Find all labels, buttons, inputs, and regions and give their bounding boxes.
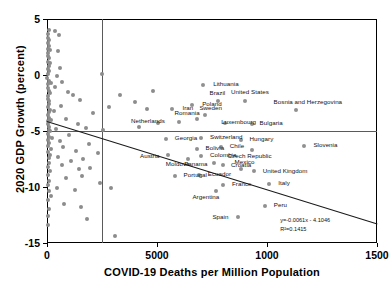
regression-annotation: y=-0.0061x - 4.1046 R²=0.1415 <box>280 216 330 233</box>
data-point <box>221 183 225 187</box>
point-label: Spain <box>212 214 228 220</box>
y-tick-label: -10 <box>10 181 40 193</box>
data-point <box>61 145 65 149</box>
data-point <box>46 183 50 187</box>
x-tick-mark <box>377 243 378 247</box>
point-label: Brazil <box>210 90 226 96</box>
data-point <box>199 136 203 140</box>
data-point <box>263 204 267 208</box>
data-point <box>195 147 199 151</box>
data-point <box>294 108 298 112</box>
point-label: Ecuador <box>208 171 231 177</box>
data-point <box>100 72 104 76</box>
point-label: Bosnia and Herzegovina <box>274 99 343 105</box>
r-squared-value: R²=0.1415 <box>280 225 330 234</box>
point-label: Chile <box>230 143 244 149</box>
data-point <box>64 117 68 121</box>
data-point <box>164 137 168 141</box>
data-point <box>73 188 77 192</box>
point-label: United Kingdom <box>263 168 308 174</box>
point-label: Austria <box>140 153 160 159</box>
point-label: Romania <box>175 110 200 116</box>
scatter-chart: 2020 GDP Growth (percent) COVID-19 Death… <box>0 0 391 285</box>
x-tick-label: 1500 <box>347 249 391 261</box>
data-point <box>84 126 88 130</box>
point-label: Portugal <box>184 172 207 178</box>
data-point <box>62 202 66 206</box>
point-label: Slovenia <box>313 142 337 148</box>
point-label: Panama <box>184 161 207 167</box>
data-point <box>78 98 82 102</box>
data-point <box>46 214 50 218</box>
x-tick-label: 0 <box>17 249 77 261</box>
data-point <box>55 74 59 78</box>
data-point <box>52 109 56 113</box>
point-label: Peru <box>274 202 287 208</box>
point-label: Switzerland <box>210 134 243 140</box>
y-tick-mark <box>43 187 47 188</box>
data-point <box>137 125 141 129</box>
data-point <box>77 167 81 171</box>
data-point <box>199 154 203 158</box>
horizontal-reference-line <box>47 131 377 132</box>
data-point <box>166 153 170 157</box>
data-point <box>145 107 149 111</box>
x-tick-mark <box>267 243 268 247</box>
x-tick-mark <box>47 243 48 247</box>
data-point <box>57 33 61 37</box>
y-tick-label: 0 <box>10 69 40 81</box>
point-label: Mexico <box>235 159 255 165</box>
data-point <box>118 93 122 97</box>
data-point <box>133 100 137 104</box>
data-point <box>56 155 60 159</box>
y-tick-mark <box>43 19 47 20</box>
point-label: Georgia <box>175 135 197 141</box>
data-point <box>60 163 64 167</box>
y-tick-label: 5 <box>10 13 40 25</box>
point-label: Hungary <box>250 136 274 142</box>
data-point <box>267 182 271 186</box>
data-point <box>66 90 70 94</box>
point-label: France <box>232 181 252 187</box>
data-point <box>195 117 199 121</box>
data-point <box>74 149 78 153</box>
point-label: Netherlands <box>131 118 165 124</box>
data-point <box>177 120 181 124</box>
regression-equation: y=-0.0061x - 4.1046 <box>280 216 330 225</box>
data-point <box>55 186 59 190</box>
data-point <box>221 163 225 167</box>
y-tick-label: -15 <box>10 237 40 249</box>
point-label: Bulgaria <box>260 120 283 126</box>
x-tick-label: 5000 <box>127 249 187 261</box>
data-point <box>98 181 102 185</box>
data-point <box>109 186 113 190</box>
data-point <box>46 165 50 169</box>
y-tick-label: -5 <box>10 125 40 137</box>
y-axis-label: 2020 GDP Growth (percent) <box>14 45 26 193</box>
data-point <box>173 174 177 178</box>
data-point <box>50 136 54 140</box>
x-axis-label: COVID-19 Deaths per Million Population <box>47 266 377 278</box>
point-label: Luxembourg <box>221 119 256 125</box>
data-point <box>101 128 105 132</box>
data-point <box>54 127 58 131</box>
point-label: Sweden <box>199 105 222 111</box>
data-point <box>47 156 51 160</box>
data-point <box>243 99 247 103</box>
data-point <box>58 139 62 143</box>
point-label: Colombia <box>210 152 237 158</box>
x-tick-label: 1000 <box>237 249 297 261</box>
point-label: Lithuania <box>213 81 239 87</box>
data-point <box>88 166 92 170</box>
data-point <box>151 89 155 93</box>
data-point <box>49 81 53 85</box>
point-label: Italy <box>278 180 290 186</box>
x-tick-mark <box>157 243 158 247</box>
point-label: Argentina <box>192 194 219 200</box>
data-point <box>80 174 84 178</box>
point-label: United States <box>231 89 269 95</box>
data-point <box>46 32 50 36</box>
